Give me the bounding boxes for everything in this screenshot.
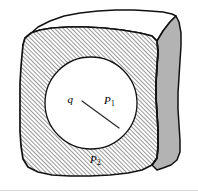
spherical-cavity-diagram: q P 1 P 2 bbox=[0, 0, 198, 191]
point-p2-label-subscript: 2 bbox=[97, 158, 101, 167]
point-p1-label-symbol: P bbox=[103, 94, 111, 106]
point-p1-label-subscript: 1 bbox=[111, 99, 115, 108]
bottom-divider bbox=[0, 190, 198, 191]
charge-label-symbol: q bbox=[68, 93, 74, 105]
point-p2-label-symbol: P bbox=[89, 153, 97, 165]
spherical-cavity bbox=[45, 57, 137, 149]
charge-label: q bbox=[68, 93, 74, 105]
figure-container: q P 1 P 2 bbox=[0, 0, 198, 191]
